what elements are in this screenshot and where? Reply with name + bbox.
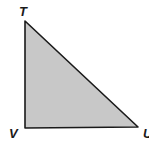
- vertex-label-t: T: [19, 4, 28, 19]
- vertex-label-v: V: [9, 126, 19, 141]
- vertex-label-u: U: [143, 126, 149, 141]
- triangle-diagram: T V U: [0, 0, 149, 144]
- triangle-tvu: [25, 21, 138, 128]
